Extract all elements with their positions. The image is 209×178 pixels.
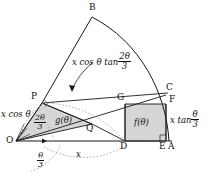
label-arc-length: x cos θ tan2θ3 bbox=[72, 52, 131, 71]
label-f-theta: f(θ) bbox=[134, 118, 149, 127]
label-x-tan-theta-3: x tanθ3 bbox=[170, 110, 199, 129]
point-label-P: P bbox=[31, 92, 37, 101]
dotted-arc-angle-theta-3 bbox=[31, 146, 60, 171]
fraction-denominator: 3 bbox=[191, 119, 198, 129]
angle-direction-arrowhead bbox=[42, 139, 47, 144]
point-label-O: O bbox=[6, 136, 13, 145]
label-baseline-x: x bbox=[76, 150, 81, 159]
figure-canvas bbox=[0, 0, 209, 178]
fraction-numerator: 2θ bbox=[118, 52, 131, 61]
point-label-A: A bbox=[168, 142, 175, 151]
dotted-arc-baseline-x bbox=[44, 146, 124, 157]
label-arc-prefix: x cos θ tan bbox=[72, 57, 118, 67]
point-label-C: C bbox=[166, 83, 173, 92]
segment-P-G-C bbox=[42, 93, 168, 103]
fraction-numerator: θ bbox=[191, 110, 198, 119]
fraction-denominator: 3 bbox=[118, 61, 131, 71]
segment-QD bbox=[92, 124, 125, 141]
geometry-figure: B P C G F Q O D E A x cos θ tan2θ3 x cos… bbox=[0, 0, 209, 178]
point-label-Q: Q bbox=[86, 124, 93, 133]
fraction-denominator: 3 bbox=[34, 122, 46, 131]
label-angle-theta-3: θ3 bbox=[37, 152, 44, 170]
point-label-F: F bbox=[169, 95, 175, 104]
fraction-numerator: 2θ bbox=[34, 114, 46, 122]
fraction-angle-top: 2θ3 bbox=[34, 114, 46, 132]
label-x-cos-theta: x cos θ bbox=[1, 110, 31, 119]
label-right-prefix: x tan bbox=[170, 115, 191, 125]
point-label-E: E bbox=[159, 142, 166, 151]
callout-arrowhead bbox=[69, 85, 75, 92]
label-g-theta: g(θ) bbox=[55, 116, 72, 125]
fraction-2theta-3: 2θ3 bbox=[118, 52, 131, 71]
point-label-D: D bbox=[120, 142, 127, 151]
fraction-denominator: 3 bbox=[37, 160, 44, 169]
fraction-numerator: θ bbox=[37, 152, 44, 160]
point-label-G: G bbox=[117, 93, 124, 102]
point-label-B: B bbox=[89, 3, 96, 12]
fraction-angle-bottom: θ3 bbox=[37, 152, 44, 170]
label-angle-2theta-3: 2θ3 bbox=[34, 114, 46, 132]
fraction-right: θ3 bbox=[191, 110, 198, 129]
